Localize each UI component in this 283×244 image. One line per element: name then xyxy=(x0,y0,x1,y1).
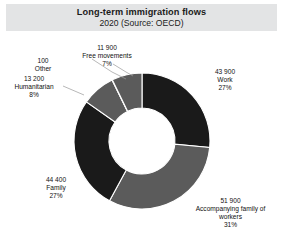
label-free-movements-value: 11 900 xyxy=(76,44,138,52)
label-family-value: 44 400 xyxy=(32,176,80,184)
label-family-percent: 27% xyxy=(32,192,80,200)
label-humanitarian-value: 13 200 xyxy=(6,75,62,83)
label-accompanying-percent: 31% xyxy=(181,221,280,229)
label-humanitarian-name: Humanitarian xyxy=(6,83,62,91)
label-other: 100 Other xyxy=(30,57,56,73)
label-other-name: Other xyxy=(30,65,56,73)
leader-line-humanitarian xyxy=(63,86,84,95)
donut-slice xyxy=(142,73,210,148)
label-free-movements-name: Free movements xyxy=(76,52,138,60)
label-other-value: 100 xyxy=(30,57,56,65)
label-free-movements: 11 900 Free movements 7% xyxy=(76,44,138,68)
chart-figure: Long-term immigration flows 2020 (Source… xyxy=(0,0,283,244)
label-accompanying-name: Accompanying family of xyxy=(181,205,280,213)
label-work-percent: 27% xyxy=(205,84,245,92)
label-accompanying-name2: workers xyxy=(181,213,280,221)
donut-slices xyxy=(74,73,210,209)
label-work-value: 43 900 xyxy=(205,68,245,76)
label-accompanying-value: 51 900 xyxy=(181,197,280,205)
label-family: 44 400 Family 27% xyxy=(32,176,80,200)
label-work: 43 900 Work 27% xyxy=(205,68,245,92)
label-work-name: Work xyxy=(205,76,245,84)
label-humanitarian-percent: 8% xyxy=(6,91,62,99)
label-accompanying: 51 900 Accompanying family of workers 31… xyxy=(181,197,280,229)
label-humanitarian: 13 200 Humanitarian 8% xyxy=(6,75,62,99)
label-free-movements-percent: 7% xyxy=(76,60,138,68)
label-family-name: Family xyxy=(32,184,80,192)
